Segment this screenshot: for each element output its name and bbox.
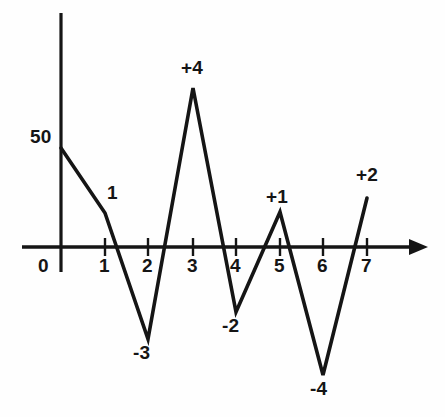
x-axis-arrow-icon — [409, 239, 428, 255]
x-tick-label-6: 6 — [317, 256, 328, 275]
x-tick-label-5: 5 — [274, 256, 285, 275]
x-tick-label-2: 2 — [142, 256, 153, 275]
x-tick-label-4: 4 — [230, 256, 241, 275]
chart-container: 0 1 2 3 4 5 6 7 50 1 -3 +4 -2 +1 -4 +2 — [0, 0, 445, 417]
point-label-6: -4 — [310, 379, 327, 398]
x-tick-label-3: 3 — [187, 256, 198, 275]
point-label-7: +2 — [356, 165, 378, 184]
point-label-1: 1 — [107, 183, 118, 202]
point-label-4: -2 — [222, 316, 239, 335]
x-tick-label-0: 0 — [38, 256, 49, 275]
x-tick-label-1: 1 — [99, 256, 110, 275]
data-series-line — [61, 88, 367, 375]
point-label-5: +1 — [266, 187, 288, 206]
point-label-2: -3 — [133, 343, 150, 362]
point-label-start: 50 — [30, 127, 52, 146]
point-label-3: +4 — [181, 58, 203, 77]
line-chart-plot — [0, 0, 445, 417]
x-tick-label-7: 7 — [361, 256, 372, 275]
